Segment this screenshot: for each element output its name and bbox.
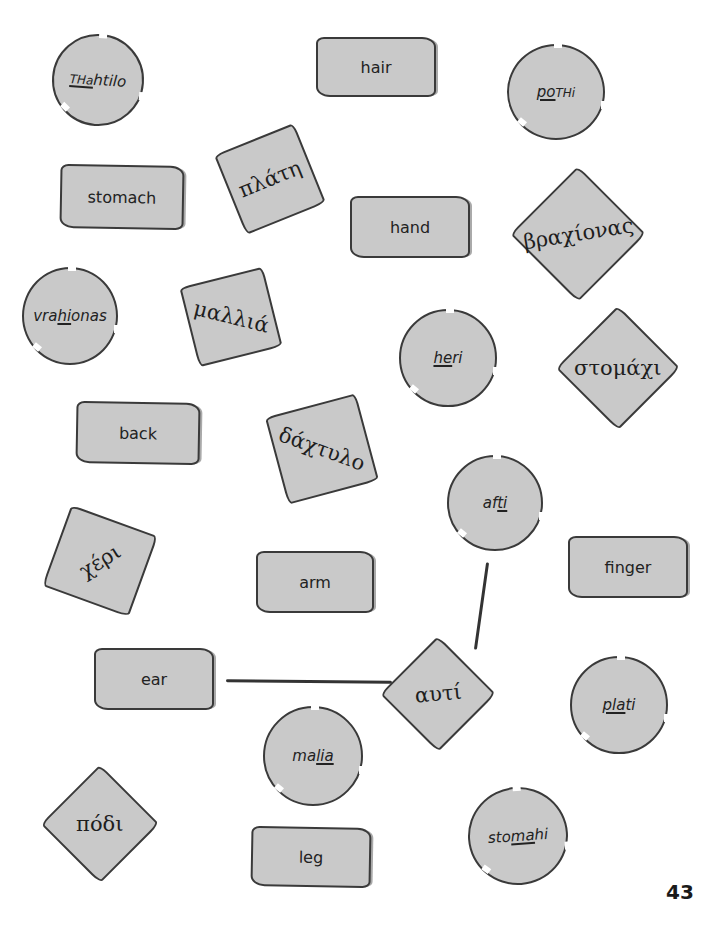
greek-tile-stomahi[interactable]: στομάχι [556,306,680,430]
greek-tile-malia[interactable]: μαλλιά [179,267,282,367]
greek-tile-vrahionas[interactable]: βραχίονας [510,166,646,302]
translit-label: stomahi [487,825,548,847]
translit-circle-pothi[interactable]: poTHi [507,44,605,140]
english-card-leg[interactable]: leg [250,826,371,888]
greek-tile-plati[interactable]: πλάτη [214,123,326,235]
translit-label: heri [433,349,462,367]
english-card-ear[interactable]: ear [94,648,214,710]
translit-circle-plati[interactable]: plati [570,656,668,754]
translit-circle-stomahi[interactable]: stomahi [465,784,572,889]
match-line-ear-to-greek [226,679,392,684]
translit-circle-heri[interactable]: heri [399,309,497,407]
page-number: 43 [666,880,694,904]
greek-tile-heri[interactable]: χέρι [42,505,158,617]
translit-label: plati [603,696,636,714]
english-card-arm[interactable]: arm [256,551,374,613]
translit-label: poTHi [537,83,575,101]
worksheet-page: THahtilo poTHi vrahionas heri afti plati… [0,0,721,929]
greek-tile-podi[interactable]: πόδι [41,765,160,884]
translit-label: THahtilo [69,69,127,91]
translit-label: vrahionas [33,307,107,325]
match-line-greek-to-translit [474,562,489,650]
english-card-finger[interactable]: finger [568,536,688,598]
translit-circle-thahtilo[interactable]: THahtilo [49,31,147,129]
greek-tile-dahtilo[interactable]: δάχτυλο [265,393,379,504]
translit-circle-vrahionas[interactable]: vrahionas [22,267,118,365]
english-card-hair[interactable]: hair [316,37,436,97]
english-card-hand[interactable]: hand [350,196,470,258]
greek-tile-afti[interactable]: αυτί [380,636,496,752]
english-card-back[interactable]: back [75,401,200,465]
translit-circle-malia[interactable]: malia [263,706,363,806]
english-card-stomach[interactable]: stomach [59,164,184,230]
translit-circle-afti[interactable]: afti [447,455,543,551]
translit-label: malia [292,747,333,765]
translit-label: afti [483,494,508,512]
